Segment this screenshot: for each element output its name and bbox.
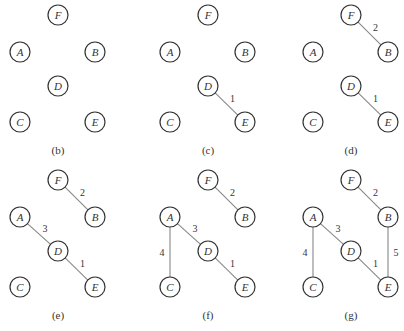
edge-weight-D-E: 1 bbox=[80, 258, 85, 269]
node-B: B bbox=[235, 42, 255, 62]
node-E: E bbox=[235, 277, 255, 297]
node-B: B bbox=[378, 42, 398, 62]
node-D: D bbox=[198, 76, 218, 96]
panel-b: FABDCE(b) bbox=[10, 5, 105, 157]
node-A: A bbox=[303, 207, 323, 227]
node-E: E bbox=[378, 277, 398, 297]
node-label: B bbox=[242, 46, 249, 58]
edge-weight-F-B: 2 bbox=[230, 187, 235, 198]
node-E: E bbox=[235, 112, 255, 132]
node-F: F bbox=[48, 170, 68, 190]
node-label: C bbox=[16, 281, 24, 293]
edge-weight-A-D: 3 bbox=[336, 223, 341, 234]
node-label: B bbox=[92, 46, 99, 58]
node-E: E bbox=[378, 112, 398, 132]
node-D: D bbox=[341, 76, 361, 96]
node-C: C bbox=[303, 112, 323, 132]
node-label: A bbox=[309, 46, 317, 58]
node-label: C bbox=[16, 116, 24, 128]
node-label: E bbox=[384, 116, 392, 128]
edge-weight-D-E: 1 bbox=[373, 93, 378, 104]
node-label: B bbox=[92, 211, 99, 223]
node-label: C bbox=[309, 116, 317, 128]
node-label: E bbox=[384, 281, 392, 293]
edge-weight-F-B: 2 bbox=[373, 187, 378, 198]
node-D: D bbox=[48, 241, 68, 261]
panel-label: (d) bbox=[345, 144, 358, 157]
edge-weight-A-D: 3 bbox=[193, 223, 198, 234]
node-label: A bbox=[309, 211, 317, 223]
panel-c: 1FABDCE(c) bbox=[160, 5, 255, 157]
node-label: F bbox=[54, 174, 62, 186]
node-label: F bbox=[204, 9, 212, 21]
edge-weight-F-B: 2 bbox=[373, 22, 378, 33]
edge-weight-A-D: 3 bbox=[43, 223, 48, 234]
node-C: C bbox=[10, 112, 30, 132]
node-label: C bbox=[309, 281, 317, 293]
node-F: F bbox=[198, 170, 218, 190]
node-label: A bbox=[166, 211, 174, 223]
node-label: D bbox=[203, 80, 212, 92]
node-A: A bbox=[303, 42, 323, 62]
node-label: D bbox=[203, 245, 212, 257]
node-label: E bbox=[91, 116, 99, 128]
node-label: E bbox=[241, 116, 249, 128]
node-C: C bbox=[10, 277, 30, 297]
node-label: F bbox=[347, 174, 355, 186]
node-label: F bbox=[54, 9, 62, 21]
node-label: C bbox=[166, 116, 174, 128]
node-E: E bbox=[85, 277, 105, 297]
node-label: D bbox=[346, 245, 355, 257]
node-label: A bbox=[16, 211, 24, 223]
node-label: E bbox=[241, 281, 249, 293]
node-label: C bbox=[166, 281, 174, 293]
node-label: A bbox=[16, 46, 24, 58]
node-C: C bbox=[303, 277, 323, 297]
node-label: D bbox=[53, 80, 62, 92]
panel-label: (c) bbox=[202, 144, 215, 157]
node-D: D bbox=[198, 241, 218, 261]
panel-label: (e) bbox=[52, 309, 65, 322]
node-F: F bbox=[341, 5, 361, 25]
node-D: D bbox=[341, 241, 361, 261]
edge-weight-A-C: 4 bbox=[160, 247, 165, 258]
edge-weight-A-C: 4 bbox=[303, 247, 308, 258]
panel-f: 1234FABDCE(f) bbox=[160, 170, 256, 322]
panel-label: (b) bbox=[52, 144, 65, 157]
node-F: F bbox=[48, 5, 68, 25]
panel-d: 12FABDCE(d) bbox=[303, 5, 398, 157]
edge-weight-D-E: 1 bbox=[230, 258, 235, 269]
node-label: D bbox=[53, 245, 62, 257]
node-label: A bbox=[166, 46, 174, 58]
node-B: B bbox=[378, 207, 398, 227]
node-D: D bbox=[48, 76, 68, 96]
node-F: F bbox=[341, 170, 361, 190]
node-B: B bbox=[85, 42, 105, 62]
node-C: C bbox=[160, 277, 180, 297]
node-C: C bbox=[160, 112, 180, 132]
edge-weight-D-E: 1 bbox=[230, 93, 235, 104]
node-A: A bbox=[160, 42, 180, 62]
node-E: E bbox=[85, 112, 105, 132]
panel-g: 12345FABDCE(g) bbox=[303, 170, 399, 322]
panel-label: (f) bbox=[203, 309, 214, 322]
node-label: E bbox=[91, 281, 99, 293]
node-B: B bbox=[235, 207, 255, 227]
edge-weight-D-E: 1 bbox=[373, 258, 378, 269]
node-A: A bbox=[160, 207, 180, 227]
kruskal-diagram: FABDCE(b)1FABDCE(c)12FABDCE(d)123FABDCE(… bbox=[0, 0, 404, 331]
edge-weight-B-E: 5 bbox=[394, 247, 399, 258]
node-label: B bbox=[242, 211, 249, 223]
node-label: B bbox=[385, 46, 392, 58]
node-label: F bbox=[204, 174, 212, 186]
panel-label: (g) bbox=[345, 309, 358, 322]
node-A: A bbox=[10, 42, 30, 62]
panel-e: 123FABDCE(e) bbox=[10, 170, 105, 322]
edge-weight-F-B: 2 bbox=[80, 187, 85, 198]
node-label: B bbox=[385, 211, 392, 223]
node-label: D bbox=[346, 80, 355, 92]
node-A: A bbox=[10, 207, 30, 227]
node-label: F bbox=[347, 9, 355, 21]
node-B: B bbox=[85, 207, 105, 227]
node-F: F bbox=[198, 5, 218, 25]
